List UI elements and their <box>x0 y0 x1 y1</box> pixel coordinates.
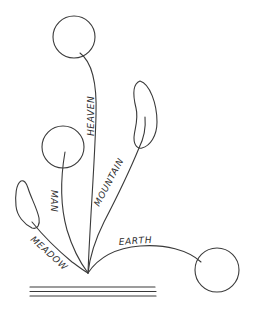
man-stem <box>62 152 88 273</box>
heaven-circle <box>53 16 95 58</box>
mountain-label: MOUNTAIN <box>92 156 126 208</box>
earth-circle <box>195 248 239 292</box>
heaven-label: HEAVEN <box>86 96 96 136</box>
heaven-branch: HEAVEN <box>53 16 96 273</box>
heaven-stem <box>80 53 96 273</box>
base-lines <box>30 287 156 296</box>
mountain-leaf-vein <box>139 117 145 148</box>
ikebana-diagram: HEAVEN MAN MOUNTAIN MEADOW EARTH <box>0 0 258 317</box>
mountain-leaf <box>134 81 157 148</box>
earth-branch: EARTH <box>88 235 239 292</box>
meadow-leaf <box>16 181 40 229</box>
meadow-label: MEADOW <box>29 234 70 273</box>
man-label: MAN <box>49 190 59 212</box>
earth-stem <box>88 246 201 273</box>
